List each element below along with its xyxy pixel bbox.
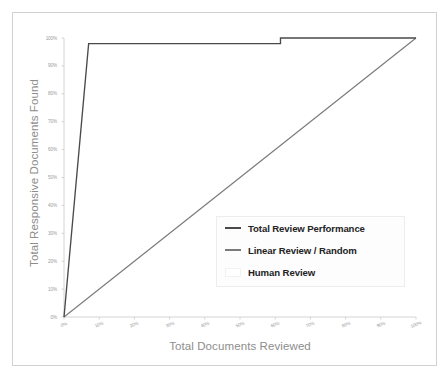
legend-line-icon [225, 249, 241, 251]
y-tick-label: 0% [31, 315, 57, 320]
legend-item-total-review-performance[interactable]: Total Review Performance [217, 217, 404, 239]
legend-line-icon [225, 227, 241, 229]
legend-item-linear-review-random[interactable]: Linear Review / Random [217, 239, 404, 261]
plot-area: 0%10%20%30%40%50%60%70%80%90%100% 0%10%2… [0, 0, 448, 376]
y-axis-title: Total Responsive Documents Found [28, 53, 40, 293]
legend-item-human-review[interactable]: Human Review [217, 261, 404, 283]
chart-screenshot: 0%10%20%30%40%50%60%70%80%90%100% 0%10%2… [0, 0, 448, 376]
chart-legend: Total Review Performance Linear Review /… [216, 216, 405, 287]
y-tick-label: 100% [31, 36, 57, 41]
legend-box-icon [225, 268, 241, 277]
x-axis-title: Total Documents Reviewed [64, 340, 416, 352]
legend-item-label: Total Review Performance [248, 223, 365, 234]
legend-item-label: Human Review [248, 267, 315, 278]
legend-item-label: Linear Review / Random [248, 245, 357, 256]
